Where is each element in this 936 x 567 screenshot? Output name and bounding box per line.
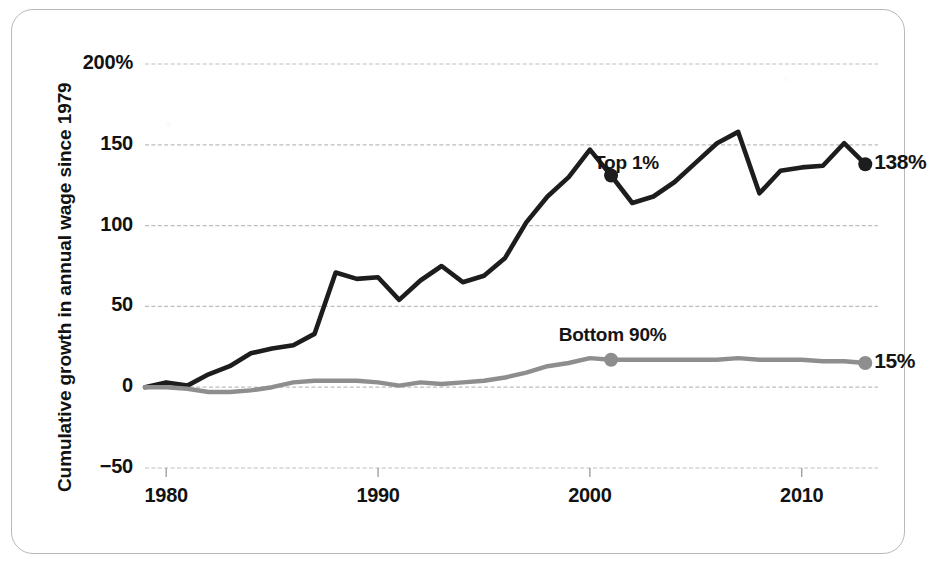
series-point-marker <box>858 356 872 370</box>
series-label-top-1-percent: Top 1% <box>594 152 659 174</box>
series-end-value-top-1-percent: 138% <box>874 150 926 174</box>
chart-svg <box>0 0 936 567</box>
series-point-marker <box>858 157 872 171</box>
series-point-marker <box>604 353 618 367</box>
chart-plot-area: Cumulative growth in annual wage since 1… <box>0 0 936 567</box>
series-end-value-bottom-90-percent: 15% <box>874 349 915 373</box>
series-label-bottom-90-percent: Bottom 90% <box>559 324 667 346</box>
series-line-top-1-percent <box>145 132 865 387</box>
